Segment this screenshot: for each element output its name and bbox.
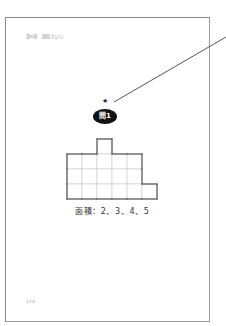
grid-cell (97, 184, 112, 199)
grid-cell (112, 169, 127, 184)
grid-cell (112, 184, 127, 199)
grid-cell (67, 154, 82, 169)
grid-cell (82, 169, 97, 184)
grid-cell (142, 184, 157, 199)
grid-cell (127, 154, 142, 169)
grid-cell (82, 184, 97, 199)
grid-cell (127, 169, 142, 184)
grid-cell (97, 154, 112, 169)
grid-cell (67, 184, 82, 199)
page-number: 173 (26, 299, 35, 304)
grid-cell (112, 154, 127, 169)
grid-figure (0, 0, 226, 326)
grid-cell (97, 169, 112, 184)
grid-cell (127, 184, 142, 199)
grid-cell (82, 154, 97, 169)
grid-cell (67, 169, 82, 184)
area-answer-label: 面積：2、3、4、5 (75, 205, 149, 216)
grid-cell (97, 139, 112, 154)
